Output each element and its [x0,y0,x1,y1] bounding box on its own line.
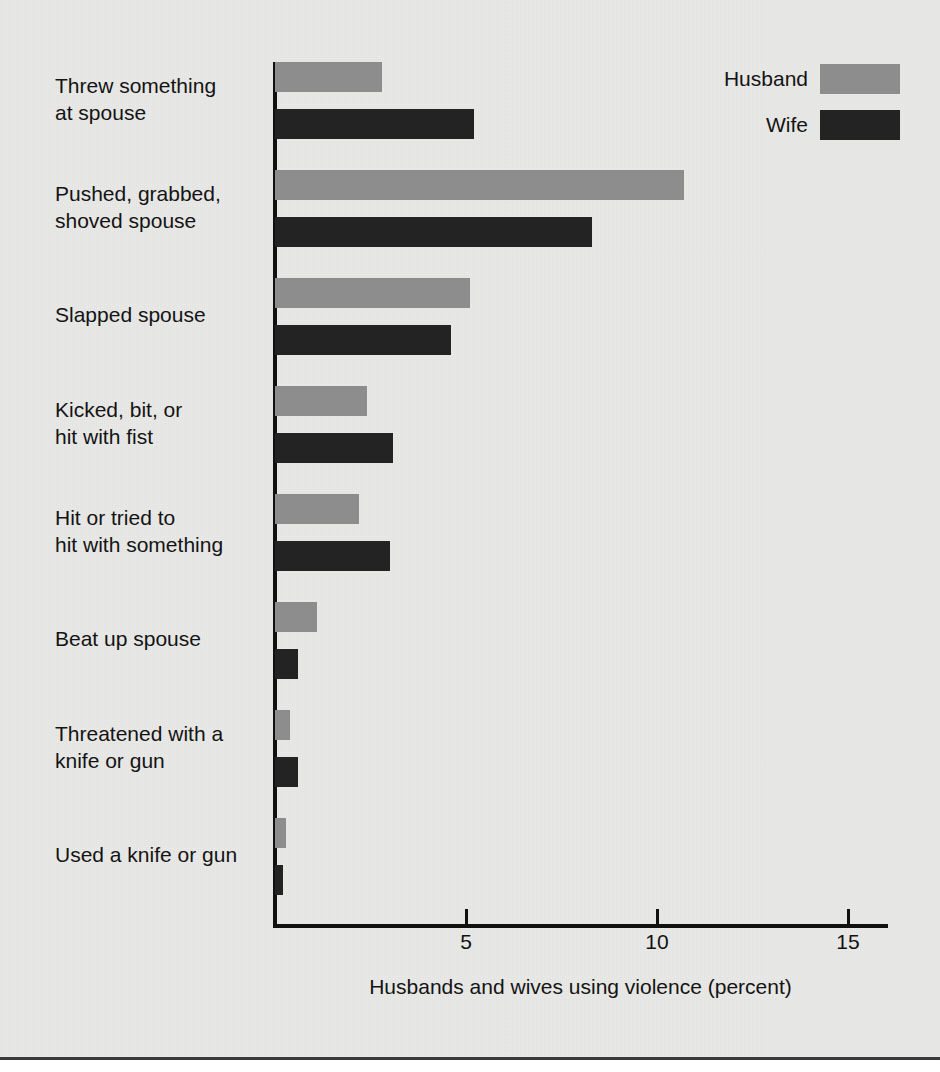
x-tick-label-15: 15 [836,930,859,954]
category-label-4: Hit or tried to hit with something [55,504,270,558]
bar-wife-3 [275,433,393,463]
bar-wife-6 [275,757,298,787]
chart-legend: Husband Wife [700,62,900,154]
x-tick-label-5: 5 [460,930,472,954]
category-label-1: Pushed, grabbed, shoved spouse [55,180,270,234]
legend-item-husband: Husband [700,62,900,96]
x-axis-title: Husbands and wives using violence (perce… [273,975,888,999]
legend-swatch-wife [820,110,900,140]
category-label-2: Slapped spouse [55,301,270,328]
x-tick-label-10: 10 [645,930,668,954]
bar-husband-7 [275,818,286,848]
x-tick-10 [656,909,659,924]
bar-wife-0 [275,109,474,139]
bar-husband-6 [275,710,290,740]
bar-husband-2 [275,278,470,308]
bar-husband-1 [275,170,684,200]
legend-label-wife: Wife [766,113,808,137]
category-label-0: Threw something at spouse [55,72,270,126]
bar-husband-4 [275,494,359,524]
bar-chart-plot-area: 51015 Threw something at spousePushed, g… [0,0,940,1072]
bar-husband-0 [275,62,382,92]
legend-label-husband: Husband [724,67,808,91]
category-label-7: Used a knife or gun [55,841,270,868]
category-label-6: Threatened with a knife or gun [55,720,270,774]
x-axis-line [273,924,888,928]
bar-wife-1 [275,217,592,247]
bar-husband-3 [275,386,367,416]
chart-page: 51015 Threw something at spousePushed, g… [0,0,940,1072]
category-label-5: Beat up spouse [55,625,270,652]
bar-wife-7 [275,865,283,895]
legend-item-wife: Wife [700,108,900,142]
bar-wife-5 [275,649,298,679]
bar-husband-5 [275,602,317,632]
x-tick-15 [847,909,850,924]
bar-wife-4 [275,541,390,571]
bar-wife-2 [275,325,451,355]
x-tick-5 [465,909,468,924]
page-bottom-margin [0,1060,940,1072]
category-label-3: Kicked, bit, or hit with fist [55,396,270,450]
legend-swatch-husband [820,64,900,94]
